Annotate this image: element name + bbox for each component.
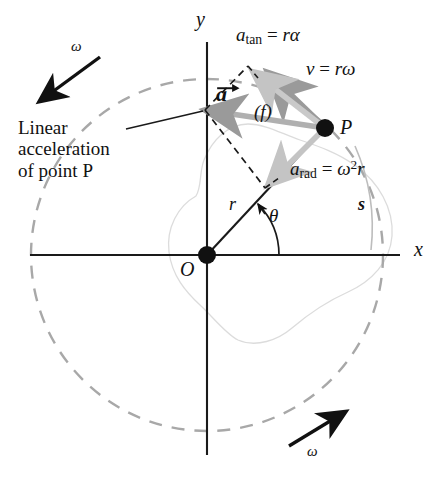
radius-label: r bbox=[229, 194, 236, 214]
y-axis-label: y bbox=[196, 8, 205, 30]
callout-line-1: Linear bbox=[18, 117, 110, 138]
omega-arrow-top-left bbox=[40, 57, 100, 101]
a-tan-value-r: r bbox=[282, 24, 289, 45]
origin-marker bbox=[198, 246, 216, 264]
velocity-label: v = rω bbox=[306, 58, 355, 79]
a-tan-value-alpha: α bbox=[290, 24, 300, 45]
omega-arrow-bottom-right bbox=[289, 412, 345, 446]
callout-leader-line bbox=[126, 111, 203, 129]
callout-linear-acceleration: Linear acceleration of point P bbox=[18, 117, 110, 181]
theta-arc-arrowhead bbox=[258, 204, 265, 214]
radial-acceleration-label: arad = ω2r bbox=[290, 158, 365, 181]
point-p-label: P bbox=[340, 116, 352, 138]
callout-line-3: of point P bbox=[18, 160, 110, 181]
a-rad-equals: = bbox=[322, 158, 333, 179]
diagram-canvas bbox=[0, 0, 440, 477]
arc-length-label: s bbox=[358, 194, 365, 214]
tangential-acceleration-label: atan = rα bbox=[236, 24, 300, 47]
a-rad-subscript: rad bbox=[300, 166, 317, 181]
a-rad-symbol: a bbox=[290, 158, 300, 179]
callout-line-2: acceleration bbox=[18, 138, 110, 159]
v-value-omega: ω bbox=[342, 58, 355, 79]
omega-label-bottom: ω bbox=[307, 443, 318, 460]
physics-diagram-figure: y x O P r θ s ω ω atan = rα v = rω arad … bbox=[0, 0, 440, 477]
vector-arrow-accent-icon bbox=[216, 81, 241, 92]
v-symbol: v bbox=[306, 58, 314, 79]
resultant-vector-marker: (f) bbox=[254, 101, 272, 122]
v-value-r: r bbox=[335, 58, 342, 79]
v-equals: = bbox=[319, 58, 330, 79]
omega-label-top: ω bbox=[71, 38, 82, 55]
a-tan-symbol: a bbox=[236, 24, 246, 45]
resultant-acceleration-label: a bbox=[216, 82, 227, 107]
a-tan-equals: = bbox=[267, 24, 278, 45]
a-rad-value-r: r bbox=[357, 158, 364, 179]
origin-label: O bbox=[180, 258, 194, 280]
point-p-marker bbox=[316, 119, 334, 137]
theta-label: θ bbox=[269, 205, 278, 226]
a-tan-subscript: tan bbox=[246, 32, 263, 47]
x-axis-label: x bbox=[414, 238, 423, 260]
a-rad-value-omega: ω bbox=[337, 158, 350, 179]
